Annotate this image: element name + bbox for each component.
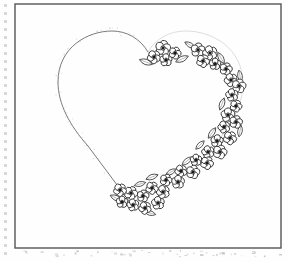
binding-hole-dot <box>4 236 7 239</box>
binding-hole-dot <box>4 92 7 95</box>
binding-hole-dot <box>4 100 7 103</box>
binding-hole-dot <box>4 76 7 79</box>
binding-hole-dot <box>4 84 7 87</box>
binding-hole-dot <box>4 68 7 71</box>
binding-hole-dot <box>4 244 7 247</box>
binding-hole-dot <box>4 28 7 31</box>
binding-hole-dot <box>4 132 7 135</box>
binding-hole-dot <box>4 252 7 255</box>
binding-hole-dot <box>4 4 7 7</box>
binding-hole-dot <box>4 60 7 63</box>
binding-hole-dot <box>4 116 7 119</box>
artwork-canvas: Floral Heart Wreath heart outline with f… <box>0 0 289 262</box>
binding-hole-dot <box>4 140 7 143</box>
binding-hole-dot <box>4 36 7 39</box>
binding-hole-dot <box>4 108 7 111</box>
binding-hole-dot <box>4 164 7 167</box>
binding-hole-dot <box>4 20 7 23</box>
binding-hole-dot <box>4 124 7 127</box>
binding-hole-dot <box>4 172 7 175</box>
binding-hole-dot <box>4 52 7 55</box>
binding-hole-dot <box>4 196 7 199</box>
binding-hole-dot <box>4 44 7 47</box>
binding-hole-dot <box>4 204 7 207</box>
binding-hole-dot <box>4 228 7 231</box>
binding-hole-dot <box>4 148 7 151</box>
binding-hole-dot <box>4 12 7 15</box>
binding-hole-dot <box>4 220 7 223</box>
paper-background <box>0 0 289 262</box>
line-art-drawing <box>0 0 289 262</box>
binding-hole-dot <box>4 180 7 183</box>
binding-hole-dot <box>4 156 7 159</box>
binding-hole-dot <box>4 188 7 191</box>
binding-hole-dot <box>4 212 7 215</box>
